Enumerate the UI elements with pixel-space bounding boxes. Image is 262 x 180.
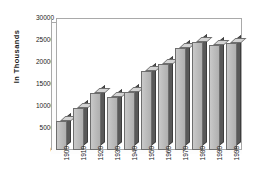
x-tick-label: 1970: [182, 146, 189, 176]
bar-front-face: [192, 42, 203, 150]
bar: [73, 103, 89, 150]
y-tick-label: 20000: [22, 59, 54, 65]
x-tick-label: 1998: [233, 146, 240, 176]
y-tick-label: 25000: [22, 37, 54, 43]
bar: [107, 92, 123, 150]
bar-front-face: [226, 43, 237, 150]
x-tick-label: 1910: [80, 146, 87, 176]
bar-front-face: [175, 48, 186, 150]
x-tick-label: 1930: [114, 146, 121, 176]
x-tick-label: 1900: [63, 146, 70, 176]
x-axis-tick-labels: 1900191019201930194019501960197019801990…: [56, 150, 242, 180]
bar: [175, 43, 191, 150]
bar-front-face: [90, 93, 101, 150]
x-tick-label: 1990: [216, 146, 223, 176]
bar-front-face: [141, 71, 152, 150]
bar: [226, 38, 242, 150]
x-tick-label: 1960: [165, 146, 172, 176]
y-axis-title: In Thousands: [12, 17, 21, 97]
bar-front-face: [209, 45, 220, 150]
y-tick-label: 5000: [22, 125, 54, 131]
x-tick-label: 1920: [97, 146, 104, 176]
bar-front-face: [124, 92, 135, 150]
bar-chart: In Thousands 050001000015000200002500030…: [0, 0, 262, 180]
x-tick-label: 1980: [199, 146, 206, 176]
bar-front-face: [73, 108, 84, 150]
bar: [56, 116, 72, 150]
bar-front-face: [107, 97, 118, 150]
bar: [141, 66, 157, 150]
x-tick-label: 1950: [148, 146, 155, 176]
x-tick-label: 1940: [131, 146, 138, 176]
y-tick-label: 30000: [22, 15, 54, 21]
bar: [124, 87, 140, 150]
y-tick-label: 10000: [22, 103, 54, 109]
y-axis-tick-labels: 050001000015000200002500030000: [22, 0, 54, 180]
bar: [209, 40, 225, 150]
bar-series: [56, 18, 242, 150]
bar: [158, 59, 174, 150]
bar-front-face: [158, 64, 169, 150]
bar: [90, 88, 106, 150]
bar: [192, 37, 208, 150]
y-tick-label: 15000: [22, 81, 54, 87]
y-tick-label: 0: [22, 147, 54, 153]
